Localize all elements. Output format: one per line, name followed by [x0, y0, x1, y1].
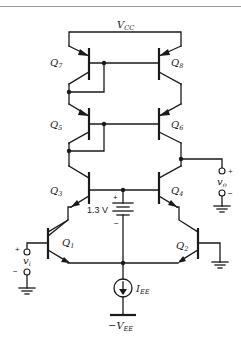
vcc-label: VCC [117, 19, 134, 32]
transistor-q5 [68, 104, 159, 166]
vcc-rail [69, 32, 181, 46]
transistor-q6 [159, 104, 181, 166]
q4-label: Q4 [171, 185, 183, 198]
q3-label: Q3 [50, 185, 62, 198]
output-node-dot [179, 157, 183, 161]
transistor-q8 [159, 46, 181, 104]
q1-label: Q1 [62, 237, 74, 250]
output-minus-terminal[interactable] [219, 190, 225, 196]
input-port [19, 275, 35, 294]
transistor-q4 [159, 166, 198, 232]
transistor-q1 [27, 220, 123, 263]
junction-dot [67, 149, 71, 153]
circuit-schematic: VCC Q7 Q8 Q5 Q6 [0, 0, 241, 337]
tail-current-source [110, 261, 136, 315]
q7-label: Q7 [50, 57, 63, 70]
junction-dot [102, 61, 106, 65]
q6-label: Q6 [171, 119, 183, 132]
output-plus-terminal[interactable] [219, 168, 225, 174]
input-voltage-label: vi [23, 255, 31, 268]
battery-plus-sign: + [113, 193, 118, 202]
output-plus-sign: + [228, 167, 233, 176]
q8-label: Q8 [171, 57, 183, 70]
battery-voltage-label: 1.3 V [87, 205, 108, 215]
transistor-q7 [68, 46, 159, 104]
junction-dot [102, 122, 106, 126]
input-minus-terminal[interactable] [24, 269, 30, 275]
output-minus-sign: − [228, 189, 233, 198]
input-plus-sign: + [15, 245, 20, 254]
input-minus-sign: − [13, 267, 18, 276]
iee-label: IEE [135, 283, 150, 296]
battery-minus-sign: − [114, 219, 119, 228]
junction-dot [121, 188, 125, 192]
q2-label: Q2 [176, 240, 188, 253]
vee-label: −VEE [108, 320, 133, 333]
junction-dot [67, 90, 71, 94]
output-voltage-label: vo [217, 176, 227, 189]
q5-label: Q5 [50, 119, 62, 132]
